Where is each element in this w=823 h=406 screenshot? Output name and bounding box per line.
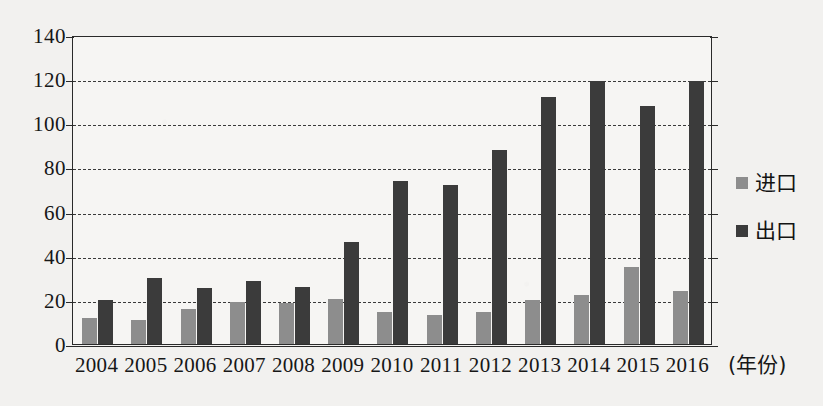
y-tick-mark-right	[710, 169, 718, 170]
bar-export	[541, 97, 556, 344]
bars-layer	[73, 37, 711, 344]
bar-group	[270, 37, 319, 344]
plot-area	[72, 36, 712, 345]
bar-import	[377, 312, 392, 344]
y-tick-label: 20	[2, 290, 66, 311]
bar-export	[98, 300, 113, 344]
bar-group	[319, 37, 368, 344]
bar-group	[73, 37, 122, 344]
bar-export	[344, 242, 359, 344]
y-tick-label: 60	[2, 202, 66, 223]
y-tick-mark-right	[710, 37, 718, 38]
bar-import	[476, 312, 491, 344]
y-tick-mark-right	[710, 125, 718, 126]
legend-swatch-export-icon	[736, 225, 748, 237]
bar-export	[393, 181, 408, 344]
y-tick-mark	[66, 214, 74, 215]
bar-group	[467, 37, 516, 344]
bar-import	[82, 318, 97, 344]
bar-import	[574, 295, 589, 344]
bar-export	[590, 81, 605, 344]
gridline	[73, 346, 711, 347]
bar-export	[640, 106, 655, 344]
chart-legend: 进口 出口	[736, 172, 820, 268]
bar-export	[246, 281, 261, 344]
bar-group	[368, 37, 417, 344]
y-tick-mark	[66, 169, 74, 170]
legend-item-export: 出口	[736, 220, 820, 242]
y-tick-mark	[66, 302, 74, 303]
bar-import	[624, 267, 639, 344]
x-tick-label: 2011	[420, 352, 462, 378]
bar-export	[295, 287, 310, 344]
bar-group	[221, 37, 270, 344]
x-tick-label: 2015	[617, 352, 660, 378]
bar-import	[525, 300, 540, 344]
legend-label-import: 进口	[755, 172, 797, 194]
bar-export	[443, 185, 458, 344]
bar-group	[171, 37, 220, 344]
x-tick-label: 2014	[567, 352, 610, 378]
y-tick-mark	[66, 81, 74, 82]
y-tick-mark-right	[710, 214, 718, 215]
x-tick-label: 2007	[223, 352, 266, 378]
x-tick-label: 2004	[75, 352, 118, 378]
x-tick-label: 2016	[666, 352, 709, 378]
bar-group	[615, 37, 664, 344]
bar-group	[516, 37, 565, 344]
y-tick-label: 120	[2, 70, 66, 91]
x-axis-labels: 2004200520062007200820092010201120122013…	[72, 352, 712, 384]
bar-import	[279, 303, 294, 344]
bar-group	[565, 37, 614, 344]
legend-swatch-import-icon	[736, 177, 748, 189]
y-tick-mark-right	[710, 81, 718, 82]
y-tick-mark	[66, 37, 74, 38]
bar-import	[427, 315, 442, 344]
legend-item-import: 进口	[736, 172, 820, 194]
y-tick-mark-right	[710, 346, 718, 347]
x-tick-label: 2005	[124, 352, 167, 378]
bar-export	[197, 288, 212, 344]
y-tick-mark	[66, 346, 74, 347]
y-tick-label: 40	[2, 246, 66, 267]
x-tick-label: 2006	[173, 352, 216, 378]
y-tick-mark-right	[710, 258, 718, 259]
y-tick-mark	[66, 125, 74, 126]
y-tick-label: 0	[2, 335, 66, 356]
bar-import	[328, 299, 343, 344]
x-tick-label: 2008	[272, 352, 315, 378]
bar-import	[673, 291, 688, 344]
bar-group	[122, 37, 171, 344]
y-tick-label: 80	[2, 158, 66, 179]
x-axis-title: (年份)	[728, 352, 786, 378]
y-tick-label: 100	[2, 114, 66, 135]
bar-chart: 020406080100120140 200420052006200720082…	[0, 0, 823, 406]
y-tick-label: 140	[2, 26, 66, 47]
bar-import	[181, 309, 196, 344]
bar-group	[418, 37, 467, 344]
x-tick-label: 2009	[321, 352, 364, 378]
bar-export	[147, 278, 162, 344]
y-axis-labels: 020406080100120140	[0, 0, 66, 406]
legend-label-export: 出口	[755, 220, 797, 242]
x-tick-label: 2013	[518, 352, 561, 378]
x-tick-label: 2010	[370, 352, 413, 378]
bar-export	[689, 81, 704, 344]
bar-export	[492, 150, 507, 344]
bar-import	[230, 302, 245, 344]
x-tick-label: 2012	[469, 352, 512, 378]
bar-group	[664, 37, 713, 344]
bar-import	[131, 320, 146, 344]
y-tick-mark	[66, 258, 74, 259]
y-tick-mark-right	[710, 302, 718, 303]
